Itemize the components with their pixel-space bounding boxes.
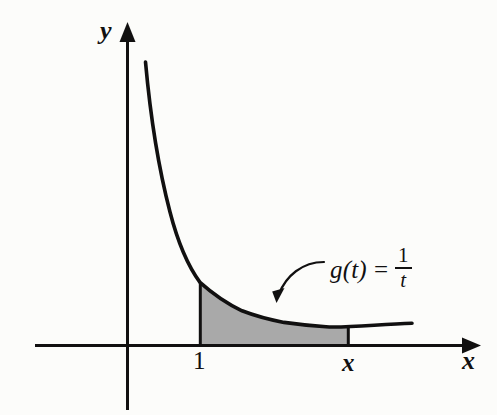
x-tick-label-1: 1 bbox=[193, 348, 206, 373]
y-axis-arrowhead bbox=[120, 22, 136, 42]
y-axis-label: y bbox=[100, 18, 112, 44]
hyperbola-integral-diagram bbox=[0, 0, 497, 415]
x-tick-label-x: x bbox=[342, 350, 355, 375]
figure-canvas: y x 1 x g(t) = 1 t bbox=[0, 0, 497, 415]
fraction-denominator: t bbox=[397, 270, 409, 291]
fraction-numerator: 1 bbox=[395, 245, 412, 266]
curve-label-equals: = bbox=[372, 257, 390, 282]
x-axis-label: x bbox=[462, 348, 475, 374]
label-leader-arrowhead bbox=[272, 288, 284, 303]
curve-label-function-name: g(t) bbox=[330, 257, 367, 282]
curve-label-fraction: 1 t bbox=[395, 245, 412, 292]
label-leader-line bbox=[279, 262, 324, 294]
curve-equation-label: g(t) = 1 t bbox=[330, 246, 412, 293]
